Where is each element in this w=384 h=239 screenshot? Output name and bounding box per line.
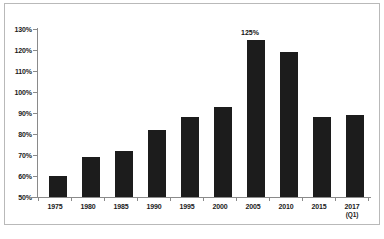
- x-axis-category-label: 2010: [271, 203, 301, 211]
- x-axis-tick: [269, 197, 270, 201]
- x-axis-line: [30, 197, 371, 198]
- x-axis-tick: [302, 197, 303, 201]
- bar-1980: [82, 157, 100, 197]
- x-axis-category-label: 2005: [238, 203, 268, 211]
- y-axis-label: 50%: [0, 194, 32, 201]
- x-axis-category-label: 2015: [304, 203, 334, 211]
- y-axis-label: 130%: [0, 26, 32, 33]
- x-axis-tick: [203, 197, 204, 201]
- x-axis-category-label: 1985: [106, 203, 136, 211]
- bar-2005: [247, 40, 265, 198]
- bar-1990: [148, 130, 166, 197]
- x-axis-category-label: 1995: [172, 203, 202, 211]
- x-axis-category-label: 1980: [73, 203, 103, 211]
- bar-2017: [346, 115, 364, 197]
- bar-1995: [181, 117, 199, 197]
- x-axis-category-label-2017: 2017 (Q1): [337, 203, 367, 219]
- bar-1985: [115, 151, 133, 197]
- y-axis-label: 80%: [0, 131, 32, 138]
- x-axis-tick: [137, 197, 138, 201]
- bar-2010: [280, 52, 298, 197]
- x-axis-category-label-2017-year: 2017: [344, 203, 359, 210]
- x-axis-category-label: 1975: [40, 203, 70, 211]
- figure: 130% 120% 110% 100% 90% 80% 70% 60% 50% …: [0, 0, 384, 239]
- plot-area: [38, 29, 368, 197]
- y-axis-label: 70%: [0, 152, 32, 159]
- y-axis-label: 90%: [0, 110, 32, 117]
- bar-1975: [49, 176, 67, 197]
- bar-2015: [313, 117, 331, 197]
- y-axis-label: 120%: [0, 47, 32, 54]
- x-axis-category-label-2017-quarter: (Q1): [337, 211, 367, 219]
- x-axis-category-label: 1990: [139, 203, 169, 211]
- y-axis-label: 100%: [0, 89, 32, 96]
- bar-2000: [214, 107, 232, 197]
- x-axis-category-label: 2000: [205, 203, 235, 211]
- x-axis-tick: [368, 197, 369, 201]
- x-axis-tick: [335, 197, 336, 201]
- y-axis-label: 60%: [0, 173, 32, 180]
- x-axis-tick: [170, 197, 171, 201]
- y-axis-label: 110%: [0, 68, 32, 75]
- x-axis-tick: [71, 197, 72, 201]
- x-axis-tick: [104, 197, 105, 201]
- x-axis-tick: [236, 197, 237, 201]
- x-axis-tick: [38, 197, 39, 201]
- bar-value-label-2005: 125%: [235, 29, 265, 36]
